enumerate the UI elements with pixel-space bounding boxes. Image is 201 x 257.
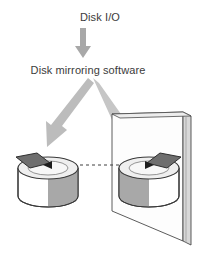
software-to-primary-disk-arrow: [46, 78, 94, 147]
diagram-canvas: Disk I/O Disk mirroring software: [0, 0, 201, 257]
io-to-software-arrow: [75, 28, 91, 58]
disk-mirroring-software-label: Disk mirroring software: [31, 64, 146, 76]
disk-mirroring-diagram: Disk I/O Disk mirroring software: [0, 0, 201, 257]
primary-disk: [16, 153, 78, 207]
disk-io-label: Disk I/O: [80, 11, 120, 23]
mirror-glass-edge: [183, 112, 191, 245]
mirrored-disk: [119, 153, 181, 207]
